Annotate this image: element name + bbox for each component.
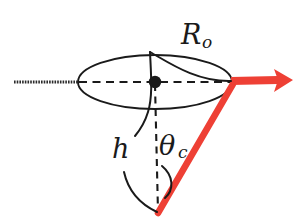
height-label: h [112, 133, 129, 164]
height-label-symbol: h [112, 133, 129, 164]
radius-label-symbol: R [180, 19, 201, 50]
figure-canvas: R o h θ c [0, 0, 305, 224]
diagram-background [0, 0, 305, 224]
cone-angle-label-subscript: c [178, 142, 188, 162]
center-point-dot [149, 76, 161, 88]
cone-diagram-svg: R o h θ c [0, 0, 305, 224]
radius-label-subscript: o [202, 32, 212, 52]
velocity-arrow-shaft [231, 80, 278, 81]
cone-angle-label-symbol: θ [159, 130, 175, 161]
